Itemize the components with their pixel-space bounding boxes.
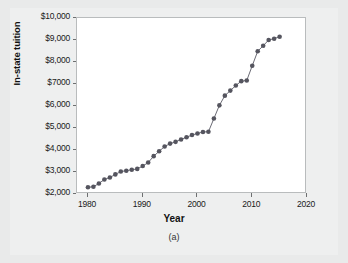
y-tick-label: $6,000: [22, 99, 70, 109]
y-tick-mark: [73, 149, 76, 150]
plot-area: [76, 17, 306, 193]
data-point: [184, 135, 189, 140]
y-tick-label: $7000: [22, 77, 70, 87]
data-point: [129, 168, 134, 173]
data-point: [97, 181, 102, 186]
data-point: [206, 129, 211, 134]
data-point: [239, 79, 244, 84]
data-point: [162, 144, 167, 149]
data-point: [86, 185, 91, 190]
data-point: [228, 88, 233, 93]
y-tick-mark: [73, 127, 76, 128]
y-tick-label: $5,000: [22, 121, 70, 131]
y-tick-label: $8,000: [22, 55, 70, 65]
y-tick-label: $3,000: [22, 165, 70, 175]
y-tick-label: $2,000: [22, 187, 70, 197]
data-point: [108, 175, 113, 180]
x-tick-label: 1990: [122, 199, 162, 209]
x-axis-title: Year: [0, 213, 348, 224]
y-tick-mark: [73, 61, 76, 62]
y-tick-mark: [73, 171, 76, 172]
x-tick-mark: [196, 193, 197, 197]
y-tick-label: $4,000: [22, 143, 70, 153]
data-point: [157, 149, 162, 154]
data-point: [140, 164, 145, 169]
data-point: [255, 49, 260, 54]
data-point: [217, 103, 222, 108]
data-point: [272, 36, 277, 41]
data-point: [119, 169, 124, 174]
y-tick-mark: [73, 83, 76, 84]
data-point: [212, 116, 217, 121]
x-tick-mark: [251, 193, 252, 197]
data-point: [234, 83, 239, 88]
figure-container: $2,000$3,000$4,000$5,000$6,000$7000$8,00…: [0, 0, 348, 263]
data-point: [201, 130, 206, 135]
x-tick-mark: [87, 193, 88, 197]
x-tick-mark: [142, 193, 143, 197]
y-tick-label: $9,000: [22, 33, 70, 43]
data-point: [113, 172, 118, 177]
data-point: [190, 133, 195, 138]
data-point: [179, 137, 184, 142]
data-point: [91, 184, 96, 189]
data-point: [266, 38, 271, 43]
y-tick-mark: [73, 39, 76, 40]
series-line: [88, 37, 280, 187]
data-point: [102, 177, 107, 182]
data-point: [173, 140, 178, 145]
y-tick-label: $10,000: [22, 11, 70, 21]
data-point: [195, 131, 200, 136]
data-point: [151, 154, 156, 159]
y-tick-mark: [73, 193, 76, 194]
y-tick-mark: [73, 105, 76, 106]
data-point: [146, 160, 151, 165]
data-point: [135, 167, 140, 172]
y-axis-title: In-state tuition: [11, 0, 22, 114]
data-point: [124, 168, 129, 173]
data-point: [277, 34, 282, 39]
data-point: [261, 43, 266, 48]
data-point: [244, 78, 249, 83]
x-tick-label: 2000: [176, 199, 216, 209]
figure-caption: (a): [0, 232, 348, 242]
line-chart-svg: [77, 18, 307, 194]
data-point: [168, 141, 173, 146]
y-tick-mark: [73, 17, 76, 18]
data-point: [250, 63, 255, 68]
x-tick-label: 2010: [231, 199, 271, 209]
data-point: [223, 93, 228, 98]
x-tick-label: 1980: [67, 199, 107, 209]
x-tick-mark: [306, 193, 307, 197]
x-tick-label: 2020: [286, 199, 326, 209]
